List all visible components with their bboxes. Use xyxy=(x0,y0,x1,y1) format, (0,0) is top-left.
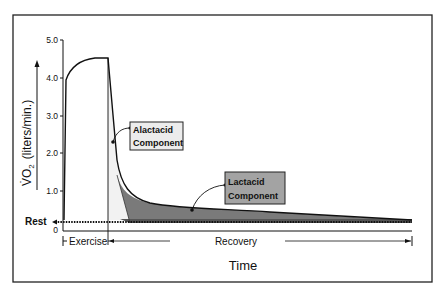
svg-text:V̇O2(liters/min.): V̇O2(liters/min.) xyxy=(20,100,36,186)
y-tick-0: 0 xyxy=(53,225,58,235)
vo2-recovery-chart: Rest 5.0 4.0 3.0 2.0 1.0 0 V̇O2(liters/m… xyxy=(0,0,444,294)
alactacid-label-line1: Alactacid xyxy=(133,125,173,135)
y-label-subscript: 2 xyxy=(27,164,36,169)
phase-recovery-label: Recovery xyxy=(215,236,257,247)
y-tick-4: 4.0 xyxy=(46,73,58,83)
lactacid-label-line2: Component xyxy=(228,191,278,201)
y-label-units: (liters/min.) xyxy=(20,100,34,159)
y-tick-2: 2.0 xyxy=(46,148,58,158)
y-tick-3: 3.0 xyxy=(46,111,58,121)
phase-exercise-label: Exercise xyxy=(69,236,108,247)
rest-label: Rest xyxy=(25,216,47,227)
lactacid-label-line1: Lactacid xyxy=(228,177,265,187)
y-tick-1: 1.0 xyxy=(46,186,58,196)
alactacid-label-line2: Component xyxy=(133,138,183,148)
x-axis-label: Time xyxy=(229,258,257,273)
y-tick-5: 5.0 xyxy=(46,35,58,45)
y-label-symbol: V̇O xyxy=(20,169,34,186)
y-axis-label: V̇O2(liters/min.) xyxy=(20,100,36,186)
